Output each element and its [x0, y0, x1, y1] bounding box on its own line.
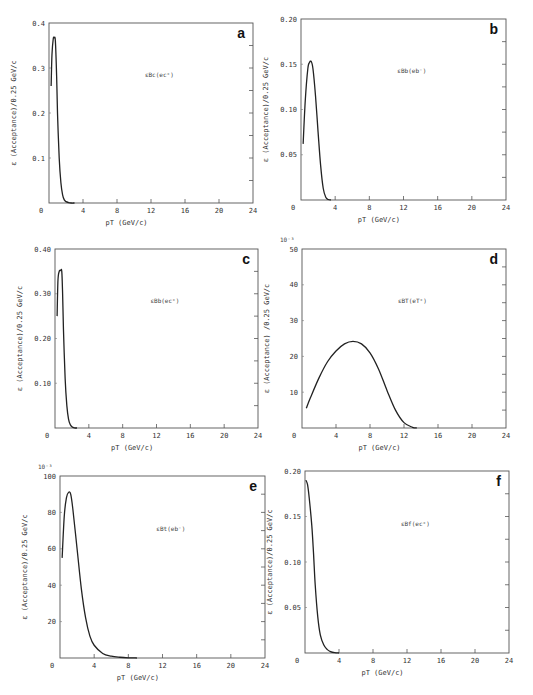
- y-tick-label: 60: [48, 545, 56, 553]
- x-axis-title: pT (GeV/c): [105, 219, 147, 227]
- y-tick-label: 0.20: [34, 335, 51, 343]
- x-axis-title: pT (GeV/c): [117, 674, 159, 682]
- efficiency-curve: [51, 37, 74, 203]
- panel-letter: f: [496, 473, 501, 489]
- x-tick-label: 8: [121, 432, 125, 440]
- x-tick-label: 20: [468, 204, 476, 212]
- x-tick-label: 24: [261, 662, 269, 670]
- x-tick-label: 12: [399, 204, 407, 212]
- y-tick-label: 0.05: [280, 151, 297, 159]
- x-tick-label: 24: [505, 657, 513, 665]
- x-tick-label: 8: [371, 657, 375, 665]
- panel-letter: e: [249, 478, 257, 494]
- x-axis-title: pT (GeV/c): [358, 216, 400, 224]
- plot-frame: [301, 19, 506, 200]
- y-tick-label: 0.15: [280, 61, 297, 69]
- plot-frame: [49, 23, 253, 203]
- efficiency-curve: [62, 492, 137, 658]
- y-tick-label: 0.2: [32, 110, 45, 118]
- y-tick-label: 0.1: [32, 155, 45, 163]
- x-tick-label: 12: [147, 207, 155, 215]
- y-tick-label: 20: [290, 353, 298, 361]
- x-tick-label: 0: [50, 662, 54, 670]
- x-tick-label: 4: [87, 432, 91, 440]
- plot-frame: [305, 471, 509, 653]
- x-tick-label: 12: [152, 432, 160, 440]
- curve-annotation: εBb(eb⁻): [397, 67, 426, 74]
- x-tick-label: 20: [227, 662, 235, 670]
- panel-letter: a: [237, 25, 245, 41]
- curve-annotation: εBc(ec⁺): [145, 71, 174, 78]
- y-tick-label: 0.10: [280, 106, 297, 114]
- x-axis-title: pT (GeV/c): [111, 444, 153, 452]
- curve-annotation: εBb(ec⁺): [150, 297, 179, 304]
- x-tick-label: 4: [81, 207, 85, 215]
- plot-frame: [55, 249, 258, 428]
- chart-panel-a: 048121620240.10.20.30.4pT (GeV/c)ε (Acce…: [10, 20, 257, 228]
- y-tick-label: 20: [48, 618, 56, 626]
- x-tick-label: 0: [291, 204, 295, 212]
- y-tick-label: 40: [48, 582, 56, 590]
- efficiency-curve: [303, 61, 331, 200]
- chart-panel-b: 048121620240.050.100.150.20pT (GeV/c)ε (…: [262, 16, 510, 225]
- efficiency-curve: [306, 480, 339, 653]
- figure-canvas: 048121620240.10.20.30.4pT (GeV/c)ε (Acce…: [0, 0, 533, 695]
- x-tick-label: 24: [249, 207, 257, 215]
- x-tick-label: 20: [471, 657, 479, 665]
- y-tick-label: 0.30: [34, 290, 51, 298]
- y-tick-label: 0.40: [34, 246, 51, 254]
- x-tick-label: 0: [39, 207, 43, 215]
- y-tick-label: 10: [290, 389, 298, 397]
- y-tick-label: 0.10: [34, 380, 51, 388]
- chart-panel-e: 048121620242040608010010⁻³pT (GeV/c)ε (A…: [21, 463, 269, 682]
- panel-letter: b: [489, 21, 498, 37]
- y-tick-label: 0.10: [284, 559, 301, 567]
- x-tick-label: 20: [468, 432, 476, 440]
- x-tick-label: 16: [192, 662, 200, 670]
- x-tick-label: 16: [437, 657, 445, 665]
- y-tick-label: 0.4: [32, 20, 45, 28]
- efficiency-curve: [57, 269, 77, 428]
- x-tick-label: 0: [295, 657, 299, 665]
- x-tick-label: 16: [186, 432, 194, 440]
- y-tick-label: 0.05: [284, 604, 301, 612]
- x-tick-label: 4: [333, 204, 337, 212]
- x-tick-label: 4: [334, 432, 338, 440]
- x-tick-label: 8: [115, 207, 119, 215]
- y-axis-title: ε (Acceptance)/0.25 GeV/c: [10, 60, 18, 165]
- x-tick-label: 8: [368, 432, 372, 440]
- y-axis-title: ε (Acceptance)/0.25 GeV/c: [262, 57, 270, 162]
- y-multiplier: 10⁻³: [38, 463, 52, 470]
- y-tick-label: 40: [290, 281, 298, 289]
- x-tick-label: 16: [433, 204, 441, 212]
- chart-panel-f: 048121620240.050.100.150.20pT (GeV/c)ε (…: [266, 468, 513, 678]
- x-tick-label: 24: [502, 432, 510, 440]
- x-tick-label: 0: [292, 432, 296, 440]
- y-axis-title: ε (Acceptance)/0.25 GeV/c: [266, 509, 274, 614]
- y-tick-label: 100: [43, 473, 56, 481]
- y-axis-title: ε (Acceptance) /0.25 GeV/c: [263, 284, 271, 394]
- x-tick-label: 8: [126, 662, 130, 670]
- x-tick-label: 16: [434, 432, 442, 440]
- plot-frame: [60, 476, 265, 658]
- y-tick-label: 50: [290, 246, 298, 254]
- x-tick-label: 24: [502, 204, 510, 212]
- y-multiplier: 10⁻³: [280, 236, 294, 243]
- curve-annotation: εBT(eT⁺): [398, 297, 427, 304]
- x-tick-label: 12: [403, 657, 411, 665]
- y-tick-label: 30: [290, 317, 298, 325]
- x-tick-label: 20: [220, 432, 228, 440]
- panel-letter: d: [489, 251, 498, 267]
- efficiency-curve: [306, 341, 417, 428]
- x-tick-label: 4: [337, 657, 341, 665]
- x-tick-label: 20: [215, 207, 223, 215]
- x-tick-label: 16: [181, 207, 189, 215]
- panel-letter: c: [242, 251, 250, 267]
- y-axis-title: ε (Acceptance)/0.25 GeV/c: [21, 514, 29, 619]
- x-tick-label: 12: [158, 662, 166, 670]
- y-tick-label: 0.3: [32, 65, 45, 73]
- x-tick-label: 8: [367, 204, 371, 212]
- x-axis-title: pT (GeV/c): [361, 669, 403, 677]
- curve-annotation: εBf(ec⁺): [401, 520, 430, 527]
- y-tick-label: 0.20: [284, 468, 301, 476]
